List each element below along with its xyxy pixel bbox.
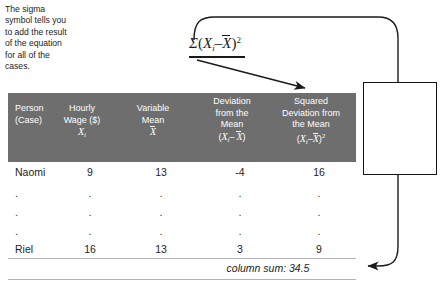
- cell-mean: .: [130, 203, 192, 222]
- table-row: Riel 16 13 3 9: [8, 240, 356, 259]
- arrow-formula-to-column: [197, 60, 305, 88]
- column-header-squared-deviation: Squared Deviation from the Mean (Xi–X)2: [266, 96, 356, 148]
- cell-mean: 13: [130, 240, 192, 259]
- cell-squared: .: [274, 184, 364, 203]
- column-header-variable-mean: Variable Mean X: [122, 103, 184, 139]
- sigma-callout-box: [363, 82, 437, 175]
- column-header-deviation-line3: Mean: [192, 119, 272, 131]
- column-header-deviation-line2: from the: [192, 108, 272, 120]
- column-header-hourly-wage-line1: Hourly: [50, 103, 114, 115]
- cell-squared: .: [274, 222, 364, 241]
- cell-deviation: .: [200, 203, 280, 222]
- column-header-squared-deviation-symbol: (Xi–X)2: [266, 131, 356, 149]
- cell-wage: .: [58, 184, 122, 203]
- column-header-deviation-line1: Deviation: [192, 96, 272, 108]
- cell-mean: .: [130, 222, 192, 241]
- table-row: Naomi 9 13 -4 16: [8, 163, 356, 182]
- column-header-deviation-symbol: (Xi– X): [192, 131, 272, 147]
- column-header-hourly-wage: Hourly Wage ($) Xi: [50, 103, 114, 142]
- cell-squared: 9: [274, 240, 364, 259]
- column-header-hourly-wage-line2: Wage ($): [50, 115, 114, 127]
- table-row-ellipsis: . . . . .: [8, 184, 356, 203]
- column-header-deviation: Deviation from the Mean (Xi– X): [192, 96, 272, 146]
- formula-exponent: 2: [236, 35, 241, 45]
- cell-squared: .: [274, 203, 364, 222]
- column-header-hourly-wage-symbol: Xi: [50, 126, 114, 142]
- cell-wage: 16: [58, 240, 122, 259]
- cell-wage: 9: [58, 163, 122, 182]
- cell-mean: .: [130, 184, 192, 203]
- sigma-formula: Σ(Xi–X)2: [170, 36, 260, 53]
- cell-wage: .: [58, 203, 122, 222]
- cell-mean: 13: [130, 163, 192, 182]
- cell-deviation: .: [200, 184, 280, 203]
- formula-underline: [189, 56, 245, 58]
- column-header-squared-deviation-line3: the Mean: [266, 119, 356, 131]
- figure-canvas: Σ(Xi–X)2 Person (Case) Hourly Wage ($) X…: [0, 0, 441, 285]
- arrow-callout-to-column-sum: [368, 175, 398, 266]
- column-header-squared-deviation-line2: Deviation from: [266, 108, 356, 120]
- cell-squared: 16: [274, 163, 364, 182]
- column-sum-label: column sum: 34.5: [180, 262, 356, 274]
- cell-deviation: -4: [200, 163, 280, 182]
- column-header-variable-mean-line2: Mean: [122, 115, 184, 127]
- formula-x-bar: X: [222, 36, 231, 51]
- column-header-variable-mean-line1: Variable: [122, 103, 184, 115]
- sigma-symbol: Σ: [189, 35, 198, 51]
- sigma-callout-text: The sigma symbol tells you to add the re…: [5, 4, 71, 72]
- cell-deviation: .: [200, 222, 280, 241]
- column-header-squared-deviation-line1: Squared: [266, 96, 356, 108]
- table-rule-bottom: [8, 279, 356, 280]
- cell-wage: .: [58, 222, 122, 241]
- formula-x-variable: X: [203, 35, 212, 51]
- table-row-ellipsis: . . . . .: [8, 203, 356, 222]
- cell-deviation: 3: [200, 240, 280, 259]
- table-row-ellipsis: . . . . .: [8, 222, 356, 241]
- column-header-variable-mean-symbol: X: [122, 126, 184, 139]
- table-rule-top: [8, 258, 356, 259]
